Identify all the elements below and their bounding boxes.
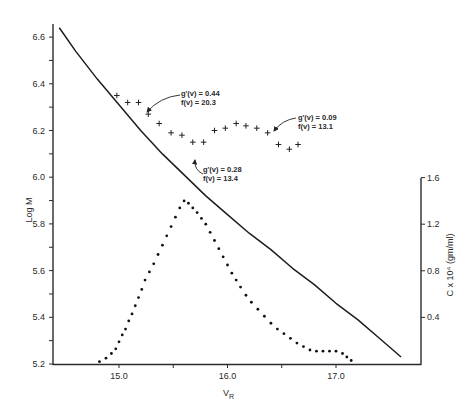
concentration-dot [157, 253, 160, 256]
annotation-line1: g'(v) = 0.44 [181, 89, 221, 98]
concentration-dot [226, 264, 229, 267]
concentration-dot [322, 350, 325, 353]
y-right-tick-label: 1.2 [427, 219, 440, 229]
concentration-dot [98, 360, 101, 363]
y-right-tick-label: 0.4 [427, 312, 440, 322]
annotations-layer: g'(v) = 0.44f(v) = 20.3g'(v) = 0.28f(v) … [147, 89, 337, 183]
annotation-arrow [274, 118, 296, 131]
plus-marker [136, 100, 142, 106]
concentration-dot [127, 319, 130, 322]
plus-marker [254, 125, 260, 131]
series-layer [59, 28, 401, 363]
concentration-dot [105, 357, 108, 360]
concentration-dot [165, 234, 168, 237]
y-tick-label: 5.8 [32, 219, 45, 229]
concentration-dot [245, 294, 248, 297]
bottom-axis-ticks: 15.016.017.0 [110, 364, 345, 381]
concentration-dot [222, 255, 225, 258]
y-right-tick-label: 1.6 [427, 173, 440, 183]
concentration-dot [276, 328, 279, 331]
annotation-line2: f(v) = 20.3 [181, 98, 216, 107]
concentration-dot [341, 352, 344, 355]
concentration-dot [178, 206, 181, 209]
plus-marker [156, 121, 162, 127]
concentration-dot [250, 301, 253, 304]
plus-marker [287, 146, 293, 152]
x-tick-label: 15.0 [110, 371, 128, 381]
concentration-dot [152, 262, 155, 265]
concentration-dot [283, 332, 286, 335]
y-right-tick-label: 0.8 [427, 266, 440, 276]
plus-marker [223, 125, 229, 131]
plus-marker [233, 121, 239, 127]
right-axis-ticks: 1.61.20.80.4 [421, 173, 440, 323]
concentration-dot [137, 296, 140, 299]
concentration-dot [140, 288, 143, 291]
concentration-dot [183, 200, 186, 203]
plus-marker [190, 139, 196, 145]
concentration-dot [124, 328, 127, 331]
y-axis-title: Log M [24, 197, 34, 222]
concentration-dot [174, 216, 177, 219]
y-tick-label: 6.0 [32, 172, 45, 182]
x-tick-label: 16.0 [219, 371, 237, 381]
x-tick-label: 17.0 [327, 371, 345, 381]
chart-container: 6.66.46.26.05.85.65.45.2 15.016.017.0 1.… [0, 0, 476, 413]
chart-svg: 6.66.46.26.05.85.65.45.2 15.016.017.0 1.… [0, 0, 476, 413]
plus-marker [114, 93, 120, 99]
annotation-line2: f(v) = 13.4 [203, 174, 239, 183]
left-axis-ticks: 6.66.46.26.05.85.65.45.2 [32, 32, 53, 369]
concentration-dot [204, 223, 207, 226]
y-tick-label: 6.4 [32, 79, 45, 89]
concentration-dot [118, 340, 121, 343]
plus-marker [212, 128, 218, 134]
annotation-arrow [195, 160, 203, 174]
annotation-line2: f(v) = 13.1 [298, 122, 333, 131]
concentration-dot [209, 231, 212, 234]
plus-marker [145, 111, 151, 117]
x-axis-title-sub: R [229, 393, 234, 400]
plus-marker [295, 142, 301, 148]
annotation-line1: g'(v) = 0.28 [203, 165, 242, 174]
concentration-dot [200, 217, 203, 220]
concentration-dot [217, 247, 220, 250]
concentration-dot [148, 271, 151, 274]
y-tick-label: 5.6 [32, 266, 45, 276]
y-right-axis-title: C x 10⁴ (gm/ml) [445, 234, 455, 297]
plus-marker [201, 139, 207, 145]
concentration-dot [315, 350, 318, 353]
concentration-dot [191, 206, 194, 209]
concentration-dot [230, 272, 233, 275]
concentration-dot [328, 350, 331, 353]
concentration-dot [335, 350, 338, 353]
concentration-dot [144, 279, 147, 282]
annotation-line1: g'(v) = 0.09 [298, 113, 337, 122]
concentration-dot [114, 347, 117, 350]
concentration-dot [309, 349, 312, 352]
concentration-dot [345, 356, 348, 359]
plus-marker [243, 123, 249, 129]
concentration-dot [239, 286, 242, 289]
concentration-dot [110, 352, 113, 355]
concentration-dot [131, 313, 134, 316]
concentration-dot [350, 359, 353, 362]
plus-marker [265, 130, 271, 136]
concentration-dot [270, 322, 273, 325]
concentration-dot [134, 304, 137, 307]
axes [53, 24, 421, 365]
concentration-dot [296, 342, 299, 345]
plus-marker [168, 130, 174, 136]
plus-marker [179, 132, 185, 138]
plus-marker [276, 142, 282, 148]
concentration-dot [302, 345, 305, 348]
concentration-dot [263, 315, 266, 318]
concentration-dot [213, 239, 216, 242]
y-tick-label: 5.4 [32, 312, 45, 322]
concentration-dot [256, 308, 259, 311]
concentration-dot [235, 279, 238, 282]
concentration-dot [170, 225, 173, 228]
calibration-curve-line [59, 28, 401, 357]
y-tick-label: 6.2 [32, 126, 45, 136]
concentration-dot [161, 244, 164, 247]
concentration-dot [121, 333, 124, 336]
